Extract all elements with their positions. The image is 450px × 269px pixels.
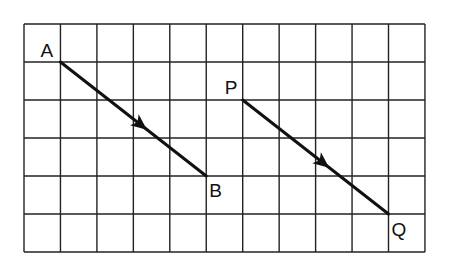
point-label-q: Q	[392, 219, 407, 240]
point-label-p: P	[225, 77, 238, 98]
point-label-a: A	[40, 40, 53, 61]
point-label-b: B	[209, 180, 222, 201]
square-grid	[24, 24, 425, 252]
vector-grid-diagram: ABPQ	[0, 0, 450, 269]
